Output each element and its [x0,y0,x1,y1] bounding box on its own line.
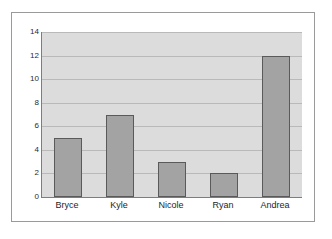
x-category-label: Andrea [249,200,301,211]
bar[interactable] [262,56,290,197]
x-category-label: Kyle [93,200,145,211]
plot-area [41,32,302,198]
y-axis-tick-labels: 14 12 10 8 6 4 2 0 [12,32,39,197]
bar[interactable] [210,173,238,197]
y-tick-label: 6 [13,122,39,130]
chart-frame: 14 12 10 8 6 4 2 0 [11,12,315,222]
bar[interactable] [106,115,134,198]
y-tick-label: 2 [13,169,39,177]
bar[interactable] [54,138,82,197]
y-tick-label: 14 [13,28,39,36]
bar-series [42,32,302,197]
x-category-label: Nicole [145,200,197,211]
bar-slot [250,32,302,197]
y-tick-label: 0 [13,193,39,201]
bar[interactable] [158,162,186,197]
y-tick-label: 12 [13,52,39,60]
bar-slot [42,32,94,197]
y-tick-label: 8 [13,99,39,107]
bar-slot [146,32,198,197]
x-category-label: Bryce [41,200,93,211]
x-axis-category-labels: Bryce Kyle Nicole Ryan Andrea [41,200,301,211]
bar-slot [198,32,250,197]
bar-slot [94,32,146,197]
y-tick-label: 10 [13,75,39,83]
y-tick-label: 4 [13,146,39,154]
x-category-label: Ryan [197,200,249,211]
